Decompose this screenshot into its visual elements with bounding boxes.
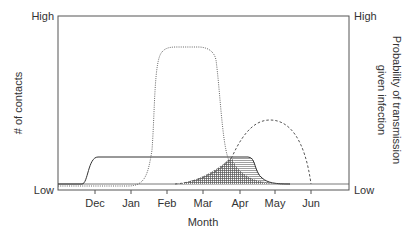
x-tick-label: Apr xyxy=(231,197,248,209)
chart-canvas: Dec Jan Feb Mar Apr May Jun Month High L… xyxy=(0,0,420,235)
y-right-high-label: High xyxy=(354,10,377,22)
y-right-low-label: Low xyxy=(354,184,374,196)
y-right-axis-label-line1: Probability of transmission xyxy=(391,36,403,164)
y-left-low-label: Low xyxy=(34,184,54,196)
x-tick-label: May xyxy=(265,197,286,209)
x-axis-label: Month xyxy=(188,216,219,228)
y-left-axis-label: # of contacts xyxy=(12,71,24,134)
x-ticks xyxy=(95,190,311,194)
x-tick-label: Jan xyxy=(122,197,140,209)
plot-frame xyxy=(58,16,349,190)
y-right-axis-label-line2: given infection xyxy=(376,65,388,135)
y-left-high-label: High xyxy=(31,10,54,22)
x-tick-label: Mar xyxy=(194,197,213,209)
x-tick-label: Jun xyxy=(302,197,320,209)
x-tick-label: Dec xyxy=(85,197,105,209)
x-tick-label: Feb xyxy=(158,197,177,209)
